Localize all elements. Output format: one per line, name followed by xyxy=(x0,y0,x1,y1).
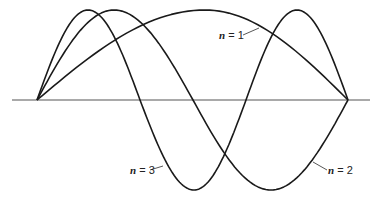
label-leader-n1 xyxy=(243,28,259,35)
standing-wave-diagram: n = 1 n = 2 n = 3 xyxy=(0,0,377,198)
label-n1-value: = 1 xyxy=(225,29,244,41)
label-n2: n = 2 xyxy=(328,164,353,176)
label-n3: n = 3 xyxy=(130,164,155,176)
label-n2-value: = 2 xyxy=(334,164,353,176)
label-n3-value: = 3 xyxy=(136,164,155,176)
label-n1: n = 1 xyxy=(219,29,244,41)
wave-plot xyxy=(0,0,377,198)
label-leader-n2 xyxy=(313,162,327,170)
wave-curve-n1 xyxy=(37,10,348,100)
